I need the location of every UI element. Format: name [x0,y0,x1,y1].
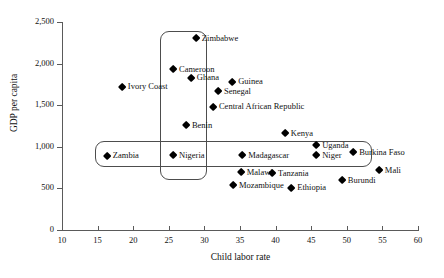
x-axis-tick [62,226,63,231]
x-axis-tick-label: 25 [154,235,184,245]
x-axis-tick [204,226,205,231]
data-point-label: Mozambique [239,180,284,191]
data-point-label: Tanzania [278,168,309,179]
x-axis-tick-label: 10 [47,235,77,245]
diamond-marker-icon [213,87,222,96]
x-axis-tick [98,226,99,231]
y-axis-tick [57,64,62,65]
x-axis-tick-label: 40 [261,235,291,245]
x-axis-tick [347,226,348,231]
data-point-label: Ethiopia [297,182,326,193]
x-axis-tick [240,226,241,231]
y-axis-tick-label: 2,000 [35,59,54,68]
x-axis-tick [382,226,383,231]
x-axis-tick-label: 45 [296,235,326,245]
data-point-label: Burundi [348,175,376,186]
y-axis-tick-label: 1,000 [35,142,54,151]
diamond-marker-icon [228,181,237,190]
y-axis-tick-label: 1,500 [35,100,54,109]
x-axis-tick-label: 20 [118,235,148,245]
x-axis-tick-label: 50 [332,235,362,245]
data-point-label: Burkina Faso [359,147,405,158]
data-point-label: Central African Republic [219,101,304,112]
x-axis-tick-label: 60 [403,235,433,245]
diamond-marker-icon [236,168,245,177]
scatter-chart: 05001,0001,5002,0002,500 101520253035404… [0,0,444,278]
diamond-marker-icon [117,82,126,91]
x-axis-title: Child labor rate [62,252,419,262]
x-axis-tick [133,226,134,231]
y-axis-tick [57,147,62,148]
x-axis-tick-label: 55 [367,235,397,245]
diamond-marker-icon [374,166,383,175]
y-axis-title: GDP per capita [9,43,19,163]
y-axis-line [62,22,63,231]
x-axis-tick-label: 35 [225,235,255,245]
diamond-marker-icon [208,102,217,111]
data-point-label: Mali [385,165,401,176]
data-point-label: Senegal [224,86,251,97]
x-axis-tick-label: 30 [189,235,219,245]
data-point-label: Zambia [113,150,139,161]
data-point-label: Niger [322,150,341,161]
diamond-marker-icon [280,129,289,138]
x-axis-tick [169,226,170,231]
data-point-label: Ghana [197,72,219,83]
y-axis-tick-label: 0 [50,225,54,234]
data-point-label: Zimbabwe [202,33,238,44]
y-axis-tick [57,22,62,23]
x-axis-tick [311,226,312,231]
data-point-label: Kenya [291,128,313,139]
y-axis-tick [57,188,62,189]
data-point-label: Benin [192,120,212,131]
x-axis-tick [418,226,419,231]
x-axis-tick-label: 15 [83,235,113,245]
y-axis-tick-label: 500 [41,183,54,192]
data-point-label: Ivory Coast [128,81,168,92]
y-axis-tick [57,105,62,106]
y-axis-tick-label: 2,500 [35,17,54,26]
data-point-label: Nigeria [179,150,205,161]
x-axis-tick [276,226,277,231]
data-point-label: Madagascar [248,150,289,161]
diamond-marker-icon [287,183,296,192]
diamond-marker-icon [337,176,346,185]
